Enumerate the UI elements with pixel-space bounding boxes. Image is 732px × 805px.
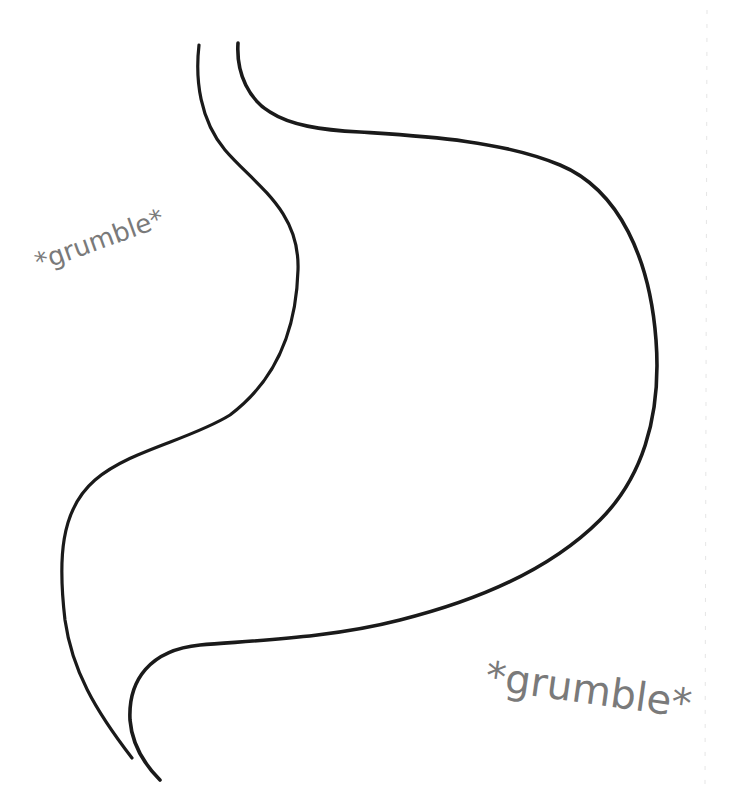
stomach-outer-curve [62,45,298,758]
paper-edge-line [705,10,707,790]
